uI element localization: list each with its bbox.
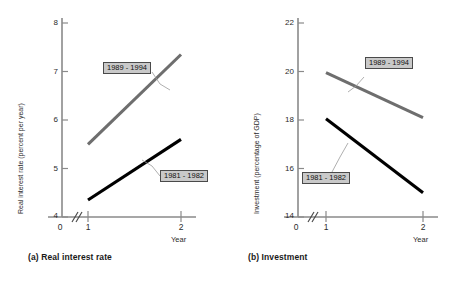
x-tick-label-1: 1 <box>81 222 95 232</box>
callout-1989-1994: 1989 - 1994 <box>103 62 151 74</box>
y-tick-label-8: 8 <box>44 18 58 27</box>
y-tick-label-5: 5 <box>44 164 58 173</box>
x-tick-label-2: 2 <box>416 222 430 232</box>
y-tick-label-20: 20 <box>274 67 294 76</box>
x-tick-label-1: 1 <box>319 222 333 232</box>
x-tick-label-2: 2 <box>174 222 188 232</box>
x-tick-label-0: 0 <box>289 222 303 232</box>
y-tick-label-7: 7 <box>44 67 58 76</box>
y-axis-title: Investment (percentage of GDP) <box>253 113 260 214</box>
y-tick-label-16: 16 <box>274 164 294 173</box>
panel-a-real-interest-rate: Real interest rate (percent per year) 8 … <box>0 0 236 283</box>
panel-b-plot-area <box>236 0 472 283</box>
figure-two-panel-chart: Real interest rate (percent per year) 8 … <box>0 0 472 283</box>
y-tick-label-18: 18 <box>274 115 294 124</box>
panel-a-caption: (a) Real interest rate <box>28 252 112 262</box>
y-tick-label-6: 6 <box>44 115 58 124</box>
y-axis-title: Real interest rate (percent per year) <box>17 103 24 214</box>
panel-a-plot-area <box>0 0 236 283</box>
y-tick-label-14: 14 <box>274 211 294 220</box>
callout-1989-1994: 1989 - 1994 <box>365 57 413 69</box>
callout-1981-1982: 1981 - 1982 <box>302 172 350 184</box>
x-tick-label-0: 0 <box>53 222 67 232</box>
y-tick-label-4: 4 <box>44 211 58 220</box>
panel-b-caption: (b) Investment <box>248 252 308 262</box>
x-axis-title: Year <box>413 235 428 244</box>
panel-b-investment: Investment (percentage of GDP) 22 20 18 … <box>236 0 472 283</box>
series-line-1989-1994 <box>326 73 423 118</box>
y-tick-label-22: 22 <box>274 18 294 27</box>
callout-1981-1982: 1981 - 1982 <box>160 170 208 182</box>
x-axis-title: Year <box>171 235 186 244</box>
leader-line-1981-1982 <box>332 143 348 172</box>
